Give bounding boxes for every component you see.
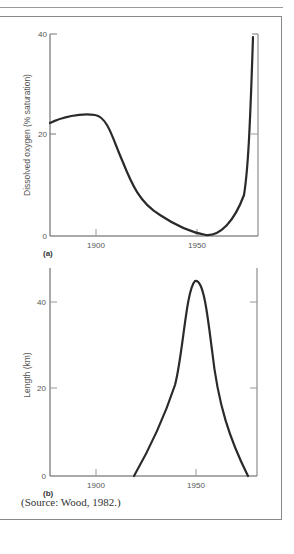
chart-b-ytick-label-40: 40 <box>37 298 46 307</box>
chart-a-ytick-label-40: 40 <box>38 30 47 39</box>
chart-a-ytick-label-20: 20 <box>38 130 47 139</box>
chart-a-xtick-label-1900: 1900 <box>87 241 105 250</box>
chart-a-ytick-label-0: 0 <box>43 232 48 241</box>
chart-b-xtick-label-1950: 1950 <box>187 481 205 490</box>
figure-svg: 40 20 0 1900 1950 (a) Dissolved oxygen (… <box>0 0 294 554</box>
chart-b-length-curve <box>134 281 248 476</box>
chart-a: 40 20 0 1900 1950 (a) Dissolved oxygen (… <box>22 30 258 258</box>
chart-b-ytick-label-20: 20 <box>37 384 46 393</box>
chart-b-ytick-label-0: 0 <box>42 472 47 481</box>
chart-b-y-title: Length (km) <box>22 352 32 398</box>
chart-b: 40 20 0 1900 1950 (b) Length (km) <box>22 268 257 498</box>
chart-a-y-title: Dissolved oxygen (% saturation) <box>22 74 32 196</box>
chart-b-xtick-label-1900: 1900 <box>87 481 105 490</box>
chart-a-panel-label: (a) <box>43 249 53 258</box>
chart-a-oxygen-curve <box>50 37 253 235</box>
chart-a-xtick-label-1950: 1950 <box>188 241 206 250</box>
source-caption: (Source: Wood, 1982.) <box>21 496 121 508</box>
